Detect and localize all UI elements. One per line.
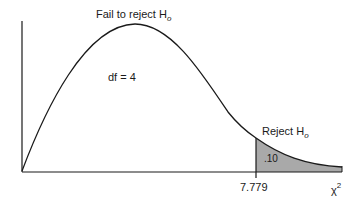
fail-to-reject-label: Fail to reject Ho xyxy=(96,8,171,23)
chi-square-chart xyxy=(0,0,362,203)
df-label: df = 4 xyxy=(108,71,136,83)
density-curve xyxy=(22,24,342,171)
alpha-area-label: .10 xyxy=(264,153,278,164)
x-axis-label: χ2 xyxy=(331,181,341,196)
critical-value-label: 7.779 xyxy=(240,181,268,193)
reject-label: Reject Ho xyxy=(262,125,309,140)
